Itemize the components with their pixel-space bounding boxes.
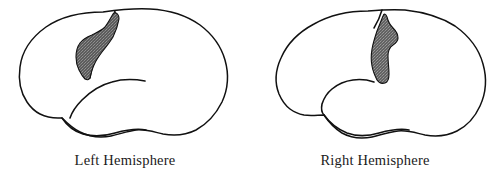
panel-label-left-hemisphere: Left Hemisphere	[75, 153, 176, 168]
cortex-outline	[19, 9, 227, 137]
panel-right-hemisphere: Right Hemisphere	[250, 0, 500, 192]
right-hemisphere-svg	[250, 0, 500, 152]
brain-lesion-figure: Left Hemisphere	[0, 0, 500, 192]
brain-diagram-left	[0, 0, 250, 152]
left-hemisphere-svg	[0, 0, 250, 152]
hemisphere-panels: Left Hemisphere	[0, 0, 500, 192]
panel-left-hemisphere: Left Hemisphere	[0, 0, 250, 192]
panel-label-right-hemisphere: Right Hemisphere	[320, 153, 429, 168]
brain-diagram-right	[250, 0, 500, 152]
